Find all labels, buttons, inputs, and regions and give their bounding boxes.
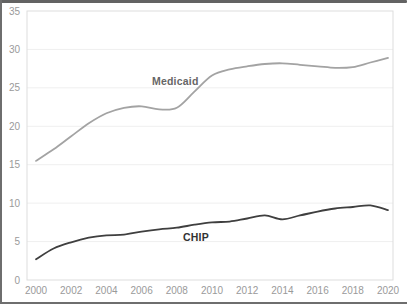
frame-left-border: [0, 0, 2, 304]
x-tick-label-2006: 2006: [130, 285, 153, 296]
x-tick-label-2008: 2008: [166, 285, 189, 296]
frame-top-border: [0, 0, 407, 3]
y-tick-label-5: 5: [14, 236, 20, 247]
y-tick-label-35: 35: [9, 6, 21, 17]
y-tick-label-25: 25: [9, 82, 21, 93]
series-label-medicaid: Medicaid: [152, 75, 199, 87]
y-tick-label-10: 10: [9, 198, 21, 209]
medicaid-chip-enrollment-line-chart: 0510152025303520002002200420062008201020…: [0, 0, 407, 306]
x-tick-label-2016: 2016: [306, 285, 329, 296]
x-tick-label-2018: 2018: [342, 285, 365, 296]
x-tick-label-2002: 2002: [60, 285, 83, 296]
y-tick-label-0: 0: [14, 275, 20, 286]
x-tick-label-2014: 2014: [271, 285, 294, 296]
x-tick-label-2012: 2012: [236, 285, 259, 296]
series-line-medicaid: [36, 58, 388, 161]
x-tick-label-2004: 2004: [95, 285, 118, 296]
x-tick-label-2010: 2010: [201, 285, 224, 296]
x-tick-label-2000: 2000: [25, 285, 48, 296]
chart-page: 0510152025303520002002200420062008201020…: [0, 0, 407, 306]
series-label-chip: CHIP: [183, 231, 209, 243]
series-line-chip: [36, 205, 388, 259]
y-tick-label-15: 15: [9, 159, 21, 170]
y-tick-label-30: 30: [9, 44, 21, 55]
x-tick-label-2020: 2020: [377, 285, 400, 296]
y-tick-label-20: 20: [9, 121, 21, 132]
frame-bottom-border: [0, 302, 407, 304]
